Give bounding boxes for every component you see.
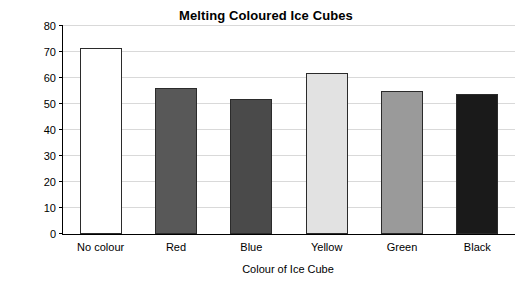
y-tick-label: 40 (44, 125, 56, 136)
x-tick-label: Red (166, 242, 186, 253)
x-tick-label: Black (464, 242, 491, 253)
bar (456, 94, 498, 234)
x-tick-label: Blue (240, 242, 262, 253)
bar (381, 91, 423, 234)
bar-chart: Melting Coloured Ice Cubes 0102030405060… (0, 0, 532, 293)
y-tick-label: 70 (44, 47, 56, 58)
plot-area: 01020304050607080 No colourRedBlueYellow… (62, 26, 515, 235)
bar-group: No colour (63, 26, 138, 234)
bar (230, 99, 272, 234)
bar-group: Yellow (289, 26, 364, 234)
bar-group: Blue (214, 26, 289, 234)
chart-title: Melting Coloured Ice Cubes (0, 8, 532, 23)
bar (155, 88, 197, 234)
x-tick-label: Yellow (311, 242, 342, 253)
y-tick-label: 20 (44, 177, 56, 188)
y-tick-label: 50 (44, 99, 56, 110)
x-tick-label: No colour (77, 242, 124, 253)
x-tick-label: Green (387, 242, 418, 253)
bar-series: No colourRedBlueYellowGreenBlack (63, 26, 515, 234)
y-tick-label: 80 (44, 21, 56, 32)
bar-group: Red (138, 26, 213, 234)
bar-group: Black (440, 26, 515, 234)
bar-group: Green (364, 26, 439, 234)
bar (306, 73, 348, 234)
y-tick-label: 60 (44, 73, 56, 84)
x-axis-title: Colour of Ice Cube (62, 262, 514, 276)
y-tick-label: 0 (50, 229, 56, 240)
y-tick-label: 30 (44, 151, 56, 162)
bar (80, 48, 122, 234)
y-tick-label: 10 (44, 203, 56, 214)
